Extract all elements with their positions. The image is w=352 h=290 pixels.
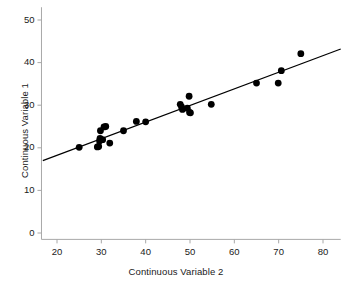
data-point bbox=[186, 93, 193, 100]
data-point bbox=[253, 80, 260, 87]
data-point bbox=[106, 140, 113, 147]
x-tick-label: 50 bbox=[175, 246, 205, 257]
data-point bbox=[76, 144, 83, 151]
x-tick-label: 40 bbox=[131, 246, 161, 257]
data-point bbox=[99, 136, 106, 143]
data-point bbox=[120, 127, 127, 134]
x-axis-title: Continuous Variable 2 bbox=[0, 266, 352, 277]
y-tick-label: 0 bbox=[12, 227, 34, 238]
data-point bbox=[208, 101, 215, 108]
x-tick-label: 70 bbox=[264, 246, 294, 257]
scatter-plot: 0102030405020304050607080 Continuous Var… bbox=[0, 0, 352, 290]
data-point bbox=[275, 80, 282, 87]
data-point bbox=[142, 118, 149, 125]
data-point bbox=[297, 50, 304, 57]
regression-line bbox=[43, 49, 341, 161]
data-point bbox=[102, 123, 109, 130]
y-tick-label: 50 bbox=[12, 14, 34, 25]
x-tick-label: 80 bbox=[308, 246, 338, 257]
x-tick-label: 20 bbox=[42, 246, 72, 257]
data-point bbox=[133, 118, 140, 125]
tick-marks bbox=[37, 20, 323, 243]
y-axis-title: Continuous Variable 1 bbox=[19, 51, 30, 211]
axis-lines bbox=[41, 7, 340, 239]
data-point bbox=[187, 109, 194, 116]
x-tick-label: 60 bbox=[219, 246, 249, 257]
x-tick-label: 30 bbox=[86, 246, 116, 257]
data-point bbox=[278, 67, 285, 74]
fit-line bbox=[43, 49, 341, 161]
